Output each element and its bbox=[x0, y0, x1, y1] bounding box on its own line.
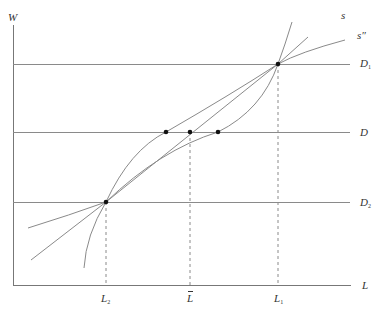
curve-label-s: s bbox=[341, 10, 345, 21]
curve-s-double-prime bbox=[28, 40, 345, 228]
label-D2-letter: D bbox=[360, 196, 368, 208]
tick-label-L1: L1 bbox=[274, 293, 283, 305]
label-D2-subscript: 2 bbox=[368, 203, 371, 209]
point-on-D-center bbox=[188, 130, 193, 135]
point-intersection-L2-D2 bbox=[104, 200, 109, 205]
point-on-D-left bbox=[164, 130, 169, 135]
label-D1: D1 bbox=[360, 58, 371, 70]
label-D1-subscript: 1 bbox=[368, 64, 371, 70]
curve-steep bbox=[84, 22, 292, 268]
tick-label-L-bar: L bbox=[187, 293, 193, 304]
curve-label-s-double-prime: s″ bbox=[357, 30, 366, 41]
y-axis-label: W bbox=[8, 12, 17, 23]
label-D: D bbox=[360, 127, 368, 138]
point-intersection-L1-D1 bbox=[276, 62, 281, 67]
x-axis-label: L bbox=[362, 280, 368, 291]
point-on-D-right bbox=[216, 130, 221, 135]
label-D2: D2 bbox=[360, 197, 371, 209]
tick-L-bar-letter: L bbox=[187, 293, 193, 304]
label-D-letter: D bbox=[360, 126, 368, 138]
tick-label-L2: L2 bbox=[101, 293, 110, 305]
tick-L1-subscript: 1 bbox=[280, 299, 283, 305]
labor-market-diagram bbox=[0, 0, 381, 311]
tick-L2-subscript: 2 bbox=[107, 299, 110, 305]
label-D1-letter: D bbox=[360, 57, 368, 69]
curve-s bbox=[31, 37, 308, 260]
